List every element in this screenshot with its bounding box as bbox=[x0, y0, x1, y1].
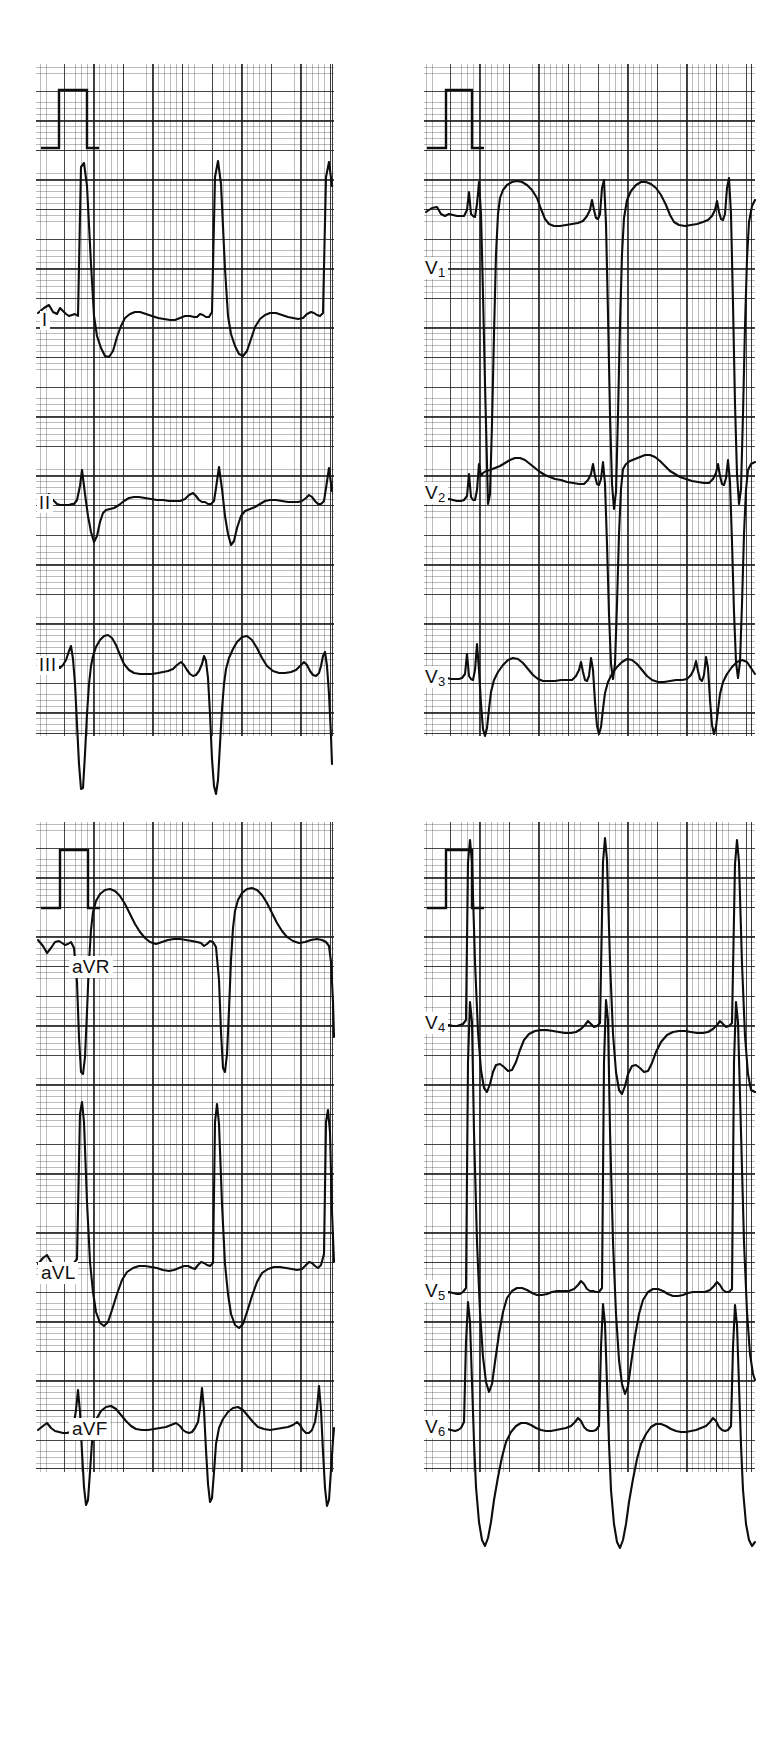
trace-lead-v6 bbox=[426, 1302, 755, 1548]
trace-lead-avf bbox=[38, 1386, 334, 1506]
trace-lead-i bbox=[38, 161, 332, 357]
trace-lead-v3 bbox=[426, 644, 755, 736]
lead-label-avf: aVF bbox=[69, 1418, 110, 1440]
lead-label-v1: V1 bbox=[422, 257, 448, 279]
lead-label-v3: V3 bbox=[422, 666, 448, 688]
ecg-panel-limb-1: I II III bbox=[36, 64, 334, 736]
lead-label-v5: V5 bbox=[422, 1280, 448, 1302]
trace-lead-v2 bbox=[426, 455, 755, 679]
ecg-traces-precordial-2 bbox=[424, 822, 755, 1472]
lead-label-avl: aVL bbox=[38, 1262, 78, 1284]
ecg-panel-precordial-2: V4 V5 V6 bbox=[424, 822, 755, 1472]
trace-lead-iii bbox=[38, 635, 332, 794]
calibration-pulse-icon bbox=[41, 90, 99, 148]
lead-label-v2: V2 bbox=[422, 482, 448, 504]
lead-label-ii: II bbox=[37, 494, 53, 513]
lead-label-avr: aVR bbox=[69, 956, 113, 978]
ecg-panel-precordial-1: V1 V2 V3 bbox=[424, 64, 755, 736]
calibration-pulse-icon bbox=[41, 850, 100, 908]
lead-label-v6: V6 bbox=[422, 1416, 448, 1438]
lead-label-iii: III bbox=[37, 656, 59, 675]
calibration-pulse-icon bbox=[427, 90, 484, 148]
trace-lead-v5 bbox=[426, 1000, 755, 1394]
trace-lead-avr bbox=[38, 888, 334, 1074]
calibration-pulse-icon bbox=[427, 850, 484, 908]
ecg-sheet: I II III V1 V2 V3 bbox=[0, 0, 772, 1750]
ecg-panel-limb-2: aVR aVL aVF bbox=[36, 822, 334, 1472]
ecg-traces-precordial-1 bbox=[424, 64, 755, 736]
trace-lead-avl bbox=[38, 1102, 334, 1328]
trace-lead-ii bbox=[38, 467, 332, 545]
trace-lead-v4 bbox=[426, 838, 755, 1094]
lead-label-i: I bbox=[40, 311, 50, 330]
ecg-traces-limb-1 bbox=[36, 64, 334, 736]
ecg-traces-limb-2 bbox=[36, 822, 334, 1472]
lead-label-v4: V4 bbox=[422, 1012, 448, 1034]
trace-lead-v1 bbox=[426, 178, 755, 509]
